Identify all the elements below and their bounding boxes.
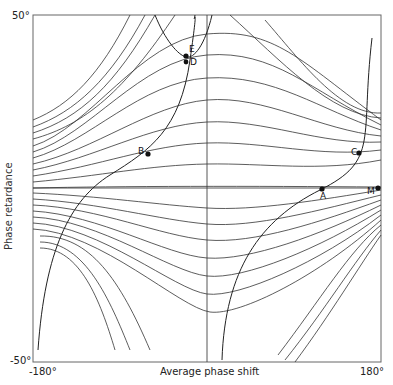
- point-D: [184, 60, 189, 65]
- point-label-D: D: [190, 57, 197, 67]
- x-axis-max-label: 180°: [360, 366, 384, 377]
- point-label-C: C: [351, 147, 357, 157]
- point-E: [183, 53, 188, 58]
- point-label-E: E: [189, 44, 195, 54]
- x-axis-min-label: -180°: [29, 366, 57, 377]
- point-B: [145, 151, 150, 156]
- y-axis-max-label: 50°: [12, 10, 30, 21]
- point-label-M: M: [367, 186, 375, 196]
- y-axis-min-label: -50°: [10, 355, 31, 366]
- marked-points: [145, 53, 380, 191]
- x-axis-title: Average phase shift: [160, 366, 259, 377]
- point-label-A: A: [320, 191, 326, 201]
- y-axis-title: Phase retardance: [3, 162, 14, 250]
- point-M: [375, 185, 380, 190]
- point-label-B: B: [138, 146, 144, 156]
